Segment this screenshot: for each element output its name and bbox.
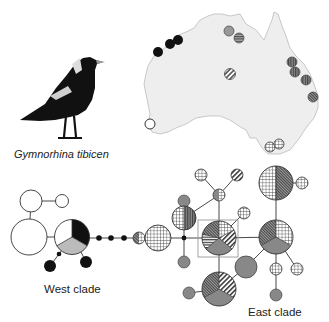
haplotype-node bbox=[183, 287, 195, 299]
haplotype-half-node bbox=[259, 166, 293, 200]
haplotype-node bbox=[44, 260, 56, 272]
figure-canvas bbox=[0, 0, 329, 322]
site-grid bbox=[265, 142, 275, 152]
haplotype-node bbox=[20, 190, 42, 212]
haplotype-pie-node bbox=[54, 219, 89, 254]
haplotype-node bbox=[178, 195, 190, 207]
species-name-caption: Gymnorhina tibicen bbox=[14, 148, 109, 160]
site-black bbox=[173, 35, 183, 45]
east-clade-label: East clade bbox=[248, 306, 302, 318]
haplotype-node bbox=[270, 289, 282, 301]
site-hstripe bbox=[234, 33, 244, 43]
haplotype-node bbox=[291, 263, 303, 275]
site-diag bbox=[225, 69, 236, 80]
haplotype-node bbox=[270, 263, 282, 275]
site-grey bbox=[224, 26, 234, 36]
haplotype-node bbox=[56, 195, 69, 208]
haplotype-half-node bbox=[133, 232, 145, 244]
haplotype-half-node bbox=[172, 206, 196, 230]
haplotype-node bbox=[238, 207, 250, 219]
west-clade-nodes bbox=[11, 190, 92, 272]
haplotype-node bbox=[11, 219, 47, 255]
west-clade-label: West clade bbox=[44, 283, 101, 295]
haplotype-pie-node bbox=[202, 221, 236, 255]
site-vstripe bbox=[290, 67, 300, 77]
haplotype-node bbox=[145, 225, 171, 251]
haplotype-node bbox=[296, 177, 308, 189]
site-vstripe bbox=[287, 57, 297, 67]
site-vstripe bbox=[301, 75, 311, 85]
haplotype-node bbox=[235, 256, 257, 278]
haplotype-node bbox=[80, 256, 92, 268]
haplotype-pie-node bbox=[202, 272, 236, 306]
site-black bbox=[153, 47, 163, 57]
site-dense bbox=[308, 92, 318, 102]
site-grid bbox=[274, 139, 284, 149]
haplotype-node bbox=[178, 256, 190, 268]
haplotype-half-node bbox=[213, 189, 225, 201]
east-clade-nodes bbox=[133, 166, 308, 306]
haplotype-pie-node bbox=[259, 220, 293, 254]
site-white bbox=[145, 119, 155, 129]
haplotype-node bbox=[195, 169, 207, 181]
magpie-bird-illustration bbox=[20, 57, 105, 138]
haplotype-node bbox=[231, 169, 243, 181]
